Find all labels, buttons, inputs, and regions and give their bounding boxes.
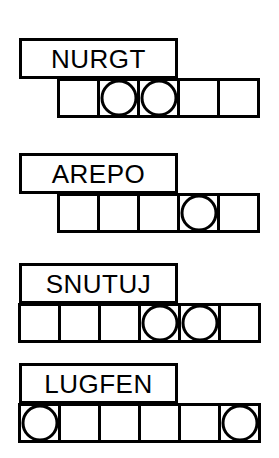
scrambled-word-text: SNUTUJ	[46, 271, 152, 297]
answer-grid	[18, 403, 261, 443]
highlight-circle-icon	[100, 80, 137, 117]
highlight-circle-icon	[141, 305, 178, 342]
answer-grid	[57, 193, 260, 233]
highlight-circle-icon	[181, 305, 218, 342]
answer-cell[interactable]	[220, 81, 260, 115]
highlight-circle-icon	[21, 405, 58, 442]
answer-cell[interactable]	[141, 406, 181, 440]
scrambled-word-text: AREPO	[52, 161, 146, 187]
word-label-box: SNUTUJ	[19, 263, 178, 304]
answer-cell[interactable]	[101, 406, 141, 440]
scrambled-word-text: LUGFEN	[44, 371, 152, 397]
answer-cell[interactable]	[61, 406, 101, 440]
puzzle-sheet: NURGTAREPOSNUTUJLUGFEN	[0, 0, 279, 458]
answer-cell[interactable]	[180, 196, 220, 230]
highlight-circle-icon	[180, 195, 217, 232]
answer-cell[interactable]	[60, 196, 100, 230]
answer-cell[interactable]	[100, 81, 140, 115]
highlight-circle-icon	[221, 405, 258, 442]
answer-cell[interactable]	[220, 196, 260, 230]
word-label-box: LUGFEN	[19, 363, 178, 404]
answer-cell[interactable]	[180, 81, 220, 115]
answer-cell[interactable]	[100, 196, 140, 230]
answer-cell[interactable]	[60, 81, 100, 115]
answer-cell[interactable]	[221, 406, 261, 440]
highlight-circle-icon	[140, 80, 177, 117]
answer-cell[interactable]	[21, 306, 61, 340]
answer-grid	[18, 303, 261, 343]
answer-cell[interactable]	[140, 81, 180, 115]
word-label-box: NURGT	[19, 38, 178, 79]
answer-cell[interactable]	[181, 306, 221, 340]
answer-cell[interactable]	[140, 196, 180, 230]
answer-cell[interactable]	[101, 306, 141, 340]
scrambled-word-text: NURGT	[51, 46, 146, 72]
word-label-box: AREPO	[19, 153, 178, 194]
answer-cell[interactable]	[61, 306, 101, 340]
answer-grid	[57, 78, 260, 118]
answer-cell[interactable]	[141, 306, 181, 340]
answer-cell[interactable]	[21, 406, 61, 440]
answer-cell[interactable]	[221, 306, 261, 340]
answer-cell[interactable]	[181, 406, 221, 440]
